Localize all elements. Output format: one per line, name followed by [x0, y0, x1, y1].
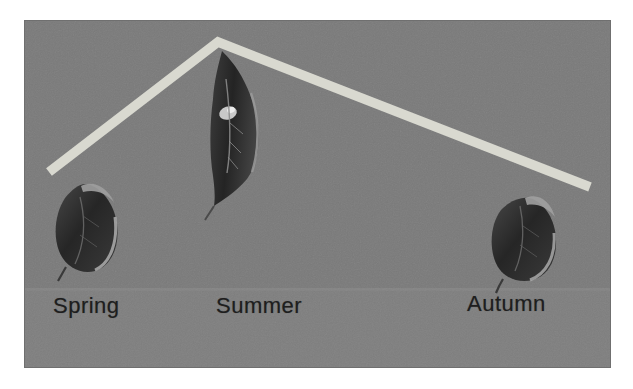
season-label-summer: Summer: [216, 295, 302, 317]
season-label-spring: Spring: [53, 295, 120, 317]
figure-panel: Spring Summer Autumn: [25, 21, 610, 367]
season-label-autumn: Autumn: [467, 293, 546, 315]
scanned-figure-page: Spring Summer Autumn: [0, 0, 633, 389]
